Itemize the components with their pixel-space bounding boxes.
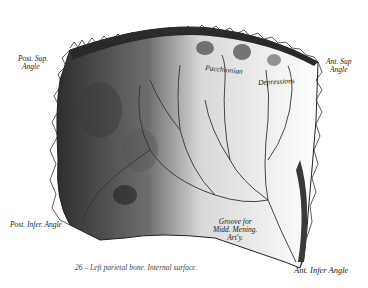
label-post-infer-angle: Post. Infer. Angle (10, 221, 62, 229)
pacchionian-depression-2 (233, 44, 251, 60)
label-post-sup-line2: Angle (18, 63, 48, 71)
impression-1 (78, 82, 122, 138)
figure-caption: 26 – Left parietal bone. Internal surfac… (75, 263, 198, 272)
parietal-bone-illustration: Post. Sup. Angle Ant. Sup Angle Pacchion… (0, 0, 368, 288)
pacchionian-depression-1 (196, 41, 214, 55)
bone-drawing (0, 0, 368, 288)
label-groove-line3: Art'y. (213, 234, 257, 242)
label-post-sup-angle: Post. Sup. Angle (18, 55, 48, 71)
label-ant-sup-line2: Angle (326, 66, 351, 74)
pacchionian-depression-3 (267, 54, 281, 66)
label-ant-infer-angle: Ant. Infer Angle (294, 266, 348, 274)
impression-2 (122, 128, 158, 172)
impression-3 (113, 185, 137, 205)
label-ant-sup-angle: Ant. Sup Angle (326, 58, 351, 74)
label-groove-midd-mening: Groove for Midd. Mening. Art'y. (213, 218, 257, 242)
